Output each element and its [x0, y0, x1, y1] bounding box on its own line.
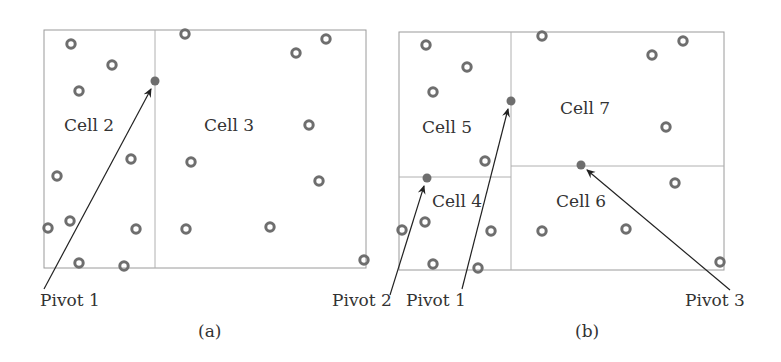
cell-4-label: Cell 4 — [432, 191, 482, 211]
frame-b — [399, 32, 724, 270]
pivot-1-label: Pivot 1 — [40, 290, 100, 310]
data-points-a — [44, 30, 368, 270]
caption-a: (a) — [198, 321, 221, 341]
pivot-2-arrow — [390, 186, 424, 295]
kd-partition-diagram: Cell 2 Cell 3 Pivot 1 (a) — [0, 0, 781, 362]
panel-a: Cell 2 Cell 3 Pivot 1 (a) — [40, 30, 368, 341]
caption-b: (b) — [575, 321, 599, 341]
panel-b: Cell 5 Cell 7 Cell 4 Cell 6 Pivot 2 Pivo… — [332, 32, 745, 341]
pivot-1-point — [151, 77, 160, 86]
pivot-3-label: Pivot 3 — [685, 290, 745, 310]
pivot-3-arrow — [587, 170, 730, 290]
cell-3-label: Cell 3 — [204, 115, 254, 135]
pivot-2-label: Pivot 2 — [332, 290, 392, 310]
cell-5-label: Cell 5 — [422, 117, 472, 137]
pivot-1-point — [507, 97, 516, 106]
pivot-3-point — [577, 161, 586, 170]
cell-2-label: Cell 2 — [64, 115, 114, 135]
pivot-1-label: Pivot 1 — [406, 290, 466, 310]
pivot-2-point — [423, 174, 432, 183]
data-points-b — [398, 32, 724, 272]
cell-6-label: Cell 6 — [556, 191, 606, 211]
cell-7-label: Cell 7 — [560, 98, 610, 118]
frame-a — [44, 30, 366, 268]
